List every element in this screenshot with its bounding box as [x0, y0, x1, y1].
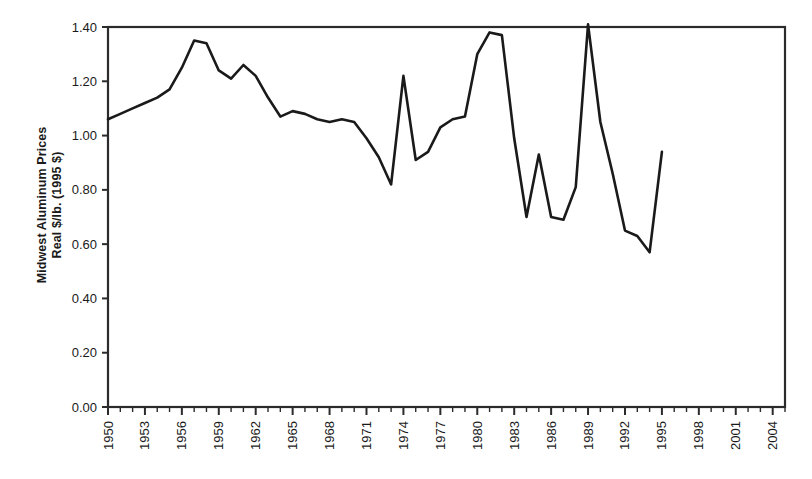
y-axis-tick-label: 1.40 [72, 20, 97, 35]
chart-container: Midwest Aluminum Prices Real $/lb. (1995… [0, 0, 812, 479]
y-axis-tick-label: 0.40 [72, 291, 97, 306]
y-axis-tick-label: 0.20 [72, 345, 97, 360]
x-axis-tick-label: 1983 [507, 421, 522, 450]
x-axis-tick-label: 2004 [765, 421, 780, 450]
y-axis-tick-label: 1.20 [72, 74, 97, 89]
x-axis-tick-label: 1962 [248, 421, 263, 450]
x-axis-tick-label: 1989 [581, 421, 596, 450]
line-chart-plot: 0.000.200.400.600.801.001.201.40 1950195… [0, 0, 812, 479]
x-axis-tick-label: 1956 [174, 421, 189, 450]
x-axis-tick-label: 1953 [137, 421, 152, 450]
x-axis-tick-label: 1998 [691, 421, 706, 450]
data-series-line [108, 24, 662, 252]
x-axis-tick-label: 1986 [544, 421, 559, 450]
x-axis-tick-label: 1980 [470, 421, 485, 450]
x-axis-tick-label: 1974 [396, 421, 411, 450]
x-axis-tick-label: 1992 [617, 421, 632, 450]
x-axis-tick-label: 1977 [433, 421, 448, 450]
x-axis-tick-label: 1959 [211, 421, 226, 450]
y-axis-tick-label: 0.80 [72, 182, 97, 197]
y-axis-tick-label: 1.00 [72, 128, 97, 143]
x-axis-tick-labels: 1950195319561959196219651968197119741977… [101, 421, 781, 450]
y-axis-tick-label: 0.00 [72, 400, 97, 415]
x-axis-tick-label: 1995 [654, 421, 669, 450]
x-axis-tick-label: 1950 [101, 421, 116, 450]
x-axis-tick-label: 2001 [728, 421, 743, 450]
x-axis-tick-label: 1965 [285, 421, 300, 450]
y-axis-tick-label: 0.60 [72, 237, 97, 252]
plot-frame [108, 27, 785, 407]
x-axis-minor-tick-marks [108, 407, 785, 415]
x-axis-tick-label: 1971 [359, 421, 374, 450]
y-axis-tick-labels: 0.000.200.400.600.801.001.201.40 [72, 20, 97, 415]
x-axis-tick-label: 1968 [322, 421, 337, 450]
